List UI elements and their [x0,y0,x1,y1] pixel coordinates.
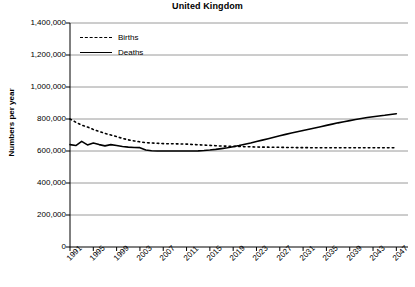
plot-area [0,0,415,287]
legend-item: Deaths [80,46,143,58]
legend-label: Births [118,33,138,42]
chart-container: United Kingdom Numbers per year 0200,000… [0,0,415,287]
legend-item: Births [80,31,138,43]
legend-swatch-solid [80,52,112,53]
legend-swatch-dashed [80,37,112,38]
legend-label: Deaths [118,48,143,57]
series-line-births [70,119,396,148]
